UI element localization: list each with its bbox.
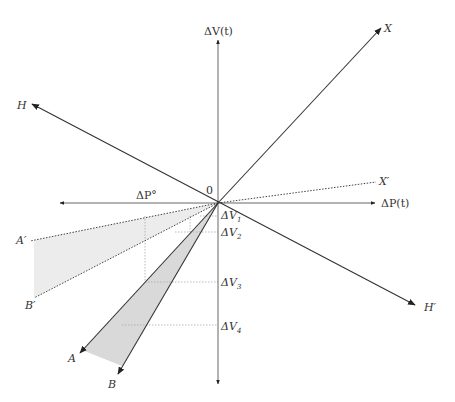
horizontal-axis-label: ΔP(t) xyxy=(381,197,409,210)
line-x xyxy=(218,28,381,203)
diagram-canvas: ΔV(t) ΔP(t) ΔP° 0 X X′ H H′ A′ B′ A B ΔV… xyxy=(0,0,455,402)
label-a: A xyxy=(67,352,76,365)
horizontal-negative-label: ΔP° xyxy=(136,189,157,202)
line-x-prime xyxy=(218,182,376,203)
svg-text:ΔV3: ΔV3 xyxy=(220,276,242,291)
label-b-prime: B′ xyxy=(24,299,36,312)
origin-label: 0 xyxy=(206,184,213,197)
svg-text:ΔV2: ΔV2 xyxy=(220,226,242,241)
label-x: X xyxy=(383,22,393,35)
line-h xyxy=(32,104,415,305)
svg-text:ΔV4: ΔV4 xyxy=(220,320,241,335)
label-h-prime: H′ xyxy=(423,301,437,314)
level-labels: ΔV1 ΔV2 ΔV3 ΔV4 xyxy=(220,209,242,335)
vertical-axis-label: ΔV(t) xyxy=(204,25,233,38)
label-b: B xyxy=(107,378,116,391)
svg-text:ΔV1: ΔV1 xyxy=(220,209,241,224)
label-x-prime: X′ xyxy=(378,175,390,188)
label-h: H xyxy=(16,99,27,112)
label-a-prime: A′ xyxy=(15,234,27,247)
